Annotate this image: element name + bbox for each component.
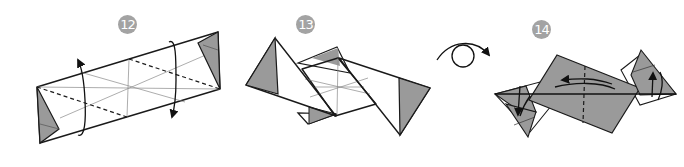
step-12-figure — [37, 32, 220, 143]
step-13-figure — [246, 38, 430, 135]
step-14-figure — [495, 50, 676, 137]
origami-diagram: 12 13 14 — [0, 0, 684, 167]
turn-over-icon — [437, 44, 489, 67]
